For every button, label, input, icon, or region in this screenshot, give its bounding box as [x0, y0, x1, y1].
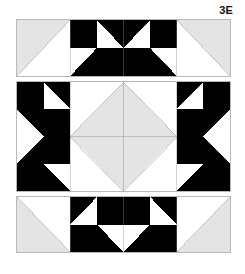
- bottom-border-strip: [16, 196, 231, 253]
- top-border-strip-graphic: [17, 20, 230, 76]
- center-medallion-row-graphic: [17, 82, 230, 191]
- top-border-strip: [16, 19, 231, 77]
- center-medallion-row: [16, 81, 231, 192]
- figure-label: 3E: [219, 4, 233, 16]
- quilt-block-figure: 3E: [0, 0, 245, 274]
- bottom-border-strip-graphic: [17, 197, 230, 252]
